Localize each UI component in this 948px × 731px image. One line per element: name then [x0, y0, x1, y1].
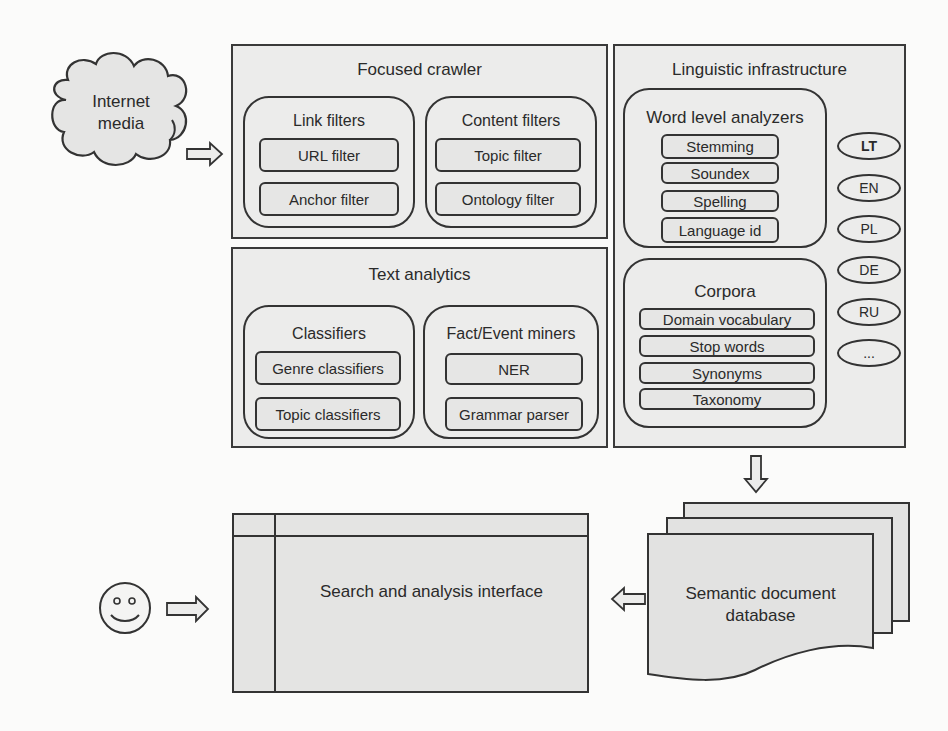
stemming-box: Stemming: [661, 134, 779, 159]
search-analysis-interface: Search and analysis interface: [232, 513, 589, 693]
database-label-line1: Semantic document: [685, 583, 835, 605]
arrow-left-icon: [610, 587, 646, 611]
link-filters-group: Link filters URL filter Anchor filter: [243, 96, 415, 228]
grammar-parser-box: Grammar parser: [445, 397, 583, 431]
language-pl: PL: [837, 215, 901, 243]
ontology-filter-box: Ontology filter: [435, 182, 581, 216]
fact-event-miners-group: Fact/Event miners NER Grammar parser: [423, 305, 599, 439]
content-filters-title: Content filters: [427, 112, 595, 130]
language-id-box: Language id: [661, 217, 779, 243]
stop-words-box: Stop words: [639, 335, 815, 357]
interface-label: Search and analysis interface: [276, 537, 587, 647]
word-level-analyzers-group: Word level analyzers Stemming Soundex Sp…: [623, 88, 827, 248]
language-ru: RU: [837, 298, 901, 326]
domain-vocabulary-box: Domain vocabulary: [639, 308, 815, 330]
linguistic-infrastructure-title: Linguistic infrastructure: [615, 60, 904, 80]
genre-classifiers-box: Genre classifiers: [255, 351, 401, 385]
database-label-line2: database: [726, 605, 796, 627]
language-en: EN: [837, 174, 901, 202]
classifiers-group: Classifiers Genre classifiers Topic clas…: [243, 305, 415, 439]
focused-crawler-title: Focused crawler: [233, 60, 606, 80]
arrow-right-icon: [186, 142, 226, 166]
classifiers-title: Classifiers: [245, 325, 413, 343]
corpora-group: Corpora Domain vocabulary Stop words Syn…: [623, 258, 827, 428]
language-more: ...: [837, 339, 901, 367]
text-analytics-panel: Text analytics Classifiers Genre classif…: [231, 247, 608, 448]
link-filters-title: Link filters: [245, 112, 413, 130]
cloud-label-line1: Internet: [92, 91, 150, 113]
corpora-title: Corpora: [625, 282, 825, 302]
language-lt: LT: [837, 132, 901, 160]
word-level-analyzers-title: Word level analyzers: [625, 108, 825, 128]
language-de: DE: [837, 256, 901, 284]
fact-event-miners-title: Fact/Event miners: [425, 325, 597, 343]
internet-media-cloud: Internet media: [26, 40, 211, 175]
text-analytics-title: Text analytics: [233, 265, 606, 285]
anchor-filter-box: Anchor filter: [259, 182, 399, 216]
arrow-right-icon: [166, 596, 210, 622]
soundex-box: Soundex: [661, 162, 779, 184]
ner-box: NER: [445, 353, 583, 385]
spelling-box: Spelling: [661, 190, 779, 212]
focused-crawler-panel: Focused crawler Link filters URL filter …: [231, 44, 608, 239]
linguistic-infrastructure-panel: Linguistic infrastructure Word level ana…: [613, 44, 906, 448]
topic-classifiers-box: Topic classifiers: [255, 397, 401, 431]
content-filters-group: Content filters Topic filter Ontology fi…: [425, 96, 597, 228]
smiley-face-icon: [98, 581, 154, 637]
taxonomy-box: Taxonomy: [639, 388, 815, 410]
synonyms-box: Synonyms: [639, 362, 815, 384]
cloud-label-line2: media: [98, 113, 144, 135]
semantic-document-database: Semantic document database: [645, 500, 915, 710]
url-filter-box: URL filter: [259, 138, 399, 172]
arrow-down-icon: [743, 455, 769, 495]
topic-filter-box: Topic filter: [435, 138, 581, 172]
